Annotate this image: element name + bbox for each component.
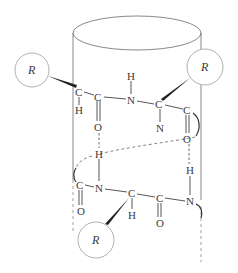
atom-c-alpha-3: C [128, 187, 135, 199]
atom-c-carbonyl-3: C [76, 179, 83, 191]
backbone-row2-atoms: H C O N C H C O N H [76, 148, 194, 229]
side-chain-left: R [15, 53, 49, 87]
r-label-right: R [200, 60, 209, 74]
atom-o-carbonyl-2: O [183, 133, 191, 145]
r-label-bottom: R [91, 233, 100, 247]
alpha-helix-diagram: R R R C H C O N H C N C O H C O N C H C … [0, 0, 238, 273]
atom-c-carbonyl-4: C [156, 192, 163, 204]
atom-c-alpha-1: C [75, 86, 82, 98]
atom-h-amide-lower: H [95, 148, 103, 160]
helix-turn-right-upper [193, 113, 199, 136]
side-chain-bottom: R [78, 222, 114, 258]
r-label-left: R [27, 63, 36, 77]
atom-o-carbonyl-1: O [94, 121, 102, 133]
backbone-row1-atoms: C H C O N H C N C O [75, 70, 191, 145]
atom-c-carbonyl-2: C [183, 104, 190, 116]
atom-n-amide-4: N [186, 195, 194, 207]
side-chain-right: R [187, 49, 223, 85]
cylinder-top-ellipse [73, 16, 201, 50]
atom-h-amide-1: H [127, 70, 135, 82]
atom-o-carbonyl-4: O [156, 217, 164, 229]
atom-h-alpha-1: H [75, 104, 83, 116]
atom-n-amide-3: N [95, 182, 103, 194]
wedge-bond-bottom-r [105, 198, 129, 225]
atom-n-amide-1: N [127, 94, 135, 106]
helix-back-strand [76, 137, 195, 168]
atom-n-alpha-2: N [156, 122, 164, 134]
backbone-row1-bonds [48, 76, 190, 133]
atom-c-carbonyl-1: C [94, 91, 101, 103]
atom-h-amide-4: H [186, 164, 194, 176]
atom-h-alpha-3: H [128, 209, 136, 221]
atom-c-alpha-2: C [155, 98, 162, 110]
wedge-bond-right-r [161, 78, 190, 101]
atom-o-carbonyl-3: O [77, 205, 85, 217]
